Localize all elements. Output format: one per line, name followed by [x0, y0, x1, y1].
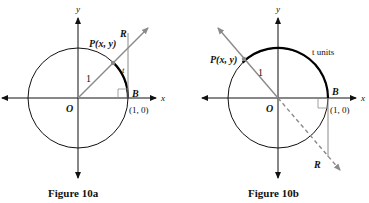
- unit-circle-figures: y x O P(x, y) R B (1, 0) 1 t Figure 10a …: [0, 0, 369, 203]
- arc-t: [113, 63, 128, 98]
- right-angle-marker: [318, 98, 328, 108]
- point-b-label: B: [331, 86, 339, 97]
- radius-label: 1: [258, 67, 263, 78]
- figure-caption: Figure 10a: [48, 187, 99, 199]
- x-axis-label: x: [360, 93, 365, 103]
- y-axis-label: y: [275, 4, 280, 14]
- point-p-dot: [111, 61, 115, 65]
- figure-10b: y x O P(x, y) R B (1, 0) 1 t units Figur…: [202, 4, 365, 199]
- point-p-label: P(x, y): [89, 38, 116, 50]
- figure-caption: Figure 10b: [248, 187, 299, 199]
- arc-label: t: [122, 65, 125, 75]
- coord-b-label: (1, 0): [330, 105, 350, 115]
- y-axis-label: y: [75, 4, 80, 14]
- coord-b-label: (1, 0): [129, 105, 149, 115]
- origin-label: O: [66, 103, 73, 114]
- point-r-label: R: [119, 28, 127, 39]
- radius-label: 1: [86, 73, 91, 84]
- origin-label: O: [266, 103, 273, 114]
- arc-label: t units: [312, 47, 335, 57]
- point-p-dot: [242, 57, 246, 61]
- point-p-label: P(x, y): [210, 54, 237, 66]
- figure-10a: y x O P(x, y) R B (1, 0) 1 t Figure 10a: [2, 4, 165, 199]
- point-r-label: R: [313, 159, 321, 170]
- point-b-label: B: [131, 88, 139, 99]
- x-axis-label: x: [160, 93, 165, 103]
